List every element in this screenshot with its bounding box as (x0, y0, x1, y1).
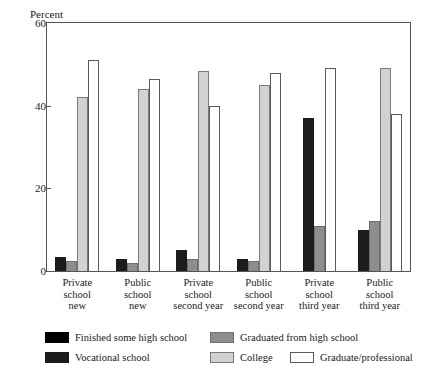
bar-group (229, 23, 290, 271)
bar (187, 259, 198, 271)
bar (314, 226, 325, 271)
bar (176, 250, 187, 271)
y-tick-label: 60 (24, 17, 46, 29)
legend-swatch-icon (290, 352, 314, 363)
x-tick-label: Publicschoolthird year (350, 277, 411, 312)
y-axis: 0204060 (0, 0, 46, 381)
x-tick-label: Privateschoolthird year (289, 277, 350, 312)
y-tick-mark (46, 188, 51, 189)
y-tick-label: 40 (24, 100, 46, 112)
y-tick-mark (46, 106, 51, 107)
y-tick-label: 0 (24, 265, 46, 277)
legend-swatch-icon (210, 332, 234, 343)
legend-item: Vocational school (45, 352, 150, 363)
bar (66, 261, 77, 271)
legend-swatch-icon (45, 332, 69, 343)
legend-item: Graduate/professional (290, 352, 413, 363)
legend-label: Graduated from high school (240, 332, 358, 343)
x-tick-label: Privateschoolnew (47, 277, 108, 312)
legend-label: Graduate/professional (320, 352, 413, 363)
bar (77, 97, 88, 271)
bar-group (108, 23, 169, 271)
bar (380, 68, 391, 271)
bar-group (168, 23, 229, 271)
bar-group (47, 23, 108, 271)
legend: Finished some high schoolGraduated from … (0, 330, 432, 376)
legend-item: Graduated from high school (210, 332, 358, 343)
bar (127, 263, 138, 271)
bar (270, 73, 281, 271)
bar-group (289, 23, 350, 271)
bar (358, 230, 369, 271)
bar-chart: Percent 0204060 PrivateschoolnewPublicsc… (0, 0, 432, 381)
bar (88, 60, 99, 271)
x-tick-label: Publicschoolsecond year (229, 277, 290, 312)
legend-item: Finished some high school (45, 332, 187, 343)
bar (248, 261, 259, 271)
legend-swatch-icon (210, 352, 234, 363)
x-tick-label: Privateschoolsecond year (168, 277, 229, 312)
bar (209, 106, 220, 271)
legend-label: Finished some high school (75, 332, 187, 343)
bar-group (350, 23, 411, 271)
legend-item: College (210, 352, 273, 363)
y-tick-label: 20 (24, 182, 46, 194)
legend-swatch-icon (45, 352, 69, 363)
bar (237, 259, 248, 271)
legend-label: Vocational school (75, 352, 150, 363)
bar (303, 118, 314, 271)
bar (369, 221, 380, 271)
bar (391, 114, 402, 271)
bar (138, 89, 149, 271)
bar (149, 79, 160, 271)
bar (116, 259, 127, 271)
bar (259, 85, 270, 271)
bar (198, 71, 209, 271)
bars-area (47, 23, 410, 271)
legend-label: College (240, 352, 273, 363)
bar (55, 257, 66, 271)
bar (325, 68, 336, 271)
x-tick-label: Publicschoolnew (108, 277, 169, 312)
